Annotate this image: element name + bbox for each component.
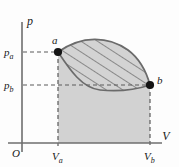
- origin-label: O: [12, 147, 20, 159]
- tick-label-pb-subscript: b: [10, 85, 14, 94]
- point-a-label: a: [52, 34, 58, 46]
- tick-label-va: Va: [52, 150, 63, 165]
- point-b-label: b: [157, 74, 163, 86]
- volume-axis-label: V: [162, 129, 171, 143]
- tick-label-pa-subscript: a: [10, 52, 14, 61]
- pv-diagram-figure: p V O pa pb Va Vb a b: [0, 0, 179, 167]
- tick-label-vb-subscript: b: [151, 156, 155, 165]
- point-a-marker[interactable]: [54, 48, 62, 56]
- tick-label-vb: Vb: [144, 150, 155, 165]
- pv-diagram-svg: p V O pa pb Va Vb a b: [0, 0, 179, 167]
- tick-label-pb: pb: [3, 79, 14, 94]
- tick-label-va-subscript: a: [59, 156, 63, 165]
- point-b-marker[interactable]: [146, 81, 154, 89]
- tick-label-pa: pa: [3, 46, 14, 61]
- pressure-axis-label: p: [26, 14, 33, 28]
